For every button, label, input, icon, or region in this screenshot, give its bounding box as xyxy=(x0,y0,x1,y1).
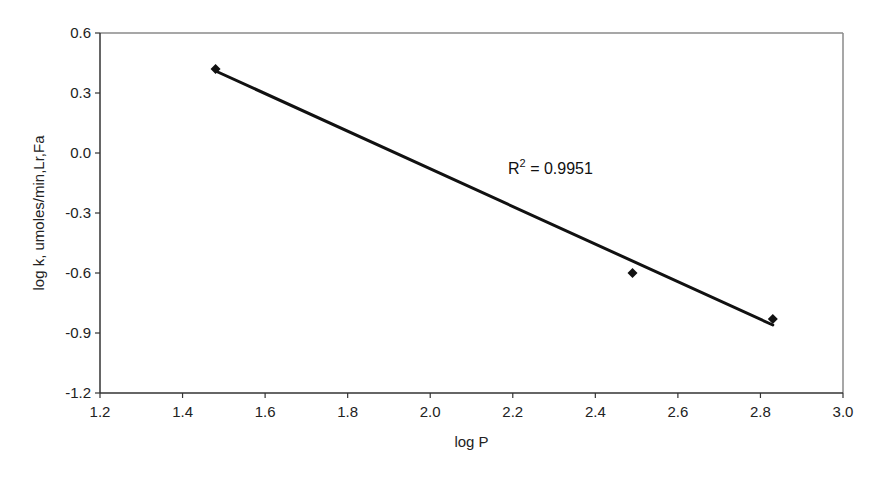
x-tick-label: 2.2 xyxy=(502,403,523,420)
x-tick-label: 2.6 xyxy=(667,403,688,420)
x-tick-label: 3.0 xyxy=(833,403,854,420)
x-tick-label: 1.6 xyxy=(255,403,276,420)
x-tick-label: 1.8 xyxy=(337,403,358,420)
x-axis: 1.21.41.61.82.02.22.42.62.83.0 xyxy=(90,393,854,420)
x-tick-label: 2.4 xyxy=(585,403,606,420)
chart: 0.60.30.0-0.3-0.6-0.9-1.2 1.21.41.61.82.… xyxy=(0,0,885,477)
y-tick-label: -0.9 xyxy=(65,324,91,341)
y-axis-title: log k, umoles/min,Lr,Fa xyxy=(30,135,47,291)
y-tick-label: -0.3 xyxy=(65,204,91,221)
y-tick-label: -0.6 xyxy=(65,264,91,281)
x-tick-label: 1.4 xyxy=(172,403,193,420)
y-tick-label: 0.3 xyxy=(70,84,91,101)
x-axis-title: log P xyxy=(454,433,488,450)
y-axis: 0.60.30.0-0.3-0.6-0.9-1.2 xyxy=(65,24,100,401)
x-tick-label: 2.8 xyxy=(750,403,771,420)
x-tick-label: 1.2 xyxy=(90,403,111,420)
y-tick-label: -1.2 xyxy=(65,384,91,401)
x-tick-label: 2.0 xyxy=(420,403,441,420)
y-tick-label: 0.0 xyxy=(70,144,91,161)
plot-area xyxy=(100,33,843,393)
y-tick-label: 0.6 xyxy=(70,24,91,41)
